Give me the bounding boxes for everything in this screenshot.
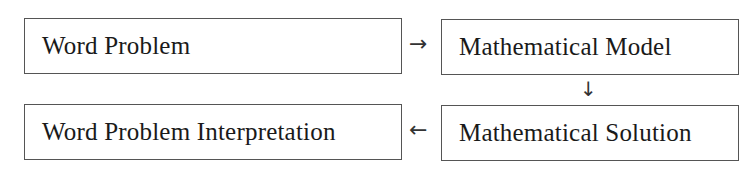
arrow-down-icon: ↓	[580, 79, 597, 99]
arrow-right-icon: →	[409, 33, 427, 55]
node-label: Mathematical Model	[442, 33, 672, 61]
node-label: Word Problem	[25, 32, 190, 60]
node-mathematical-model: Mathematical Model	[441, 19, 739, 75]
node-label: Word Problem Interpretation	[25, 118, 336, 146]
node-word-problem: Word Problem	[24, 18, 402, 74]
node-label: Mathematical Solution	[442, 119, 692, 147]
node-word-problem-interpretation: Word Problem Interpretation	[24, 104, 402, 160]
arrow-left-icon: ←	[409, 119, 427, 141]
node-mathematical-solution: Mathematical Solution	[441, 105, 739, 161]
